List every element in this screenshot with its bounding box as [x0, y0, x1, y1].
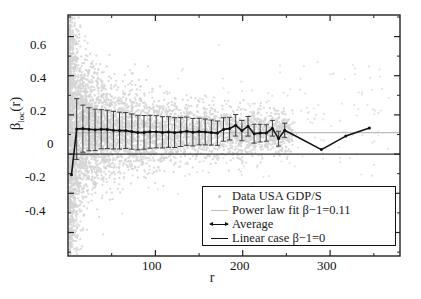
legend-item-linear: Linear case β−1=0: [203, 231, 395, 245]
ytick-label: 0.2: [30, 103, 46, 119]
figure: 0.6 0.4 0.2 0 -0.2 -0.4 100 200 300 βloc…: [0, 0, 421, 299]
grey-line-icon: [206, 203, 232, 217]
y-axis-title-subscript: loc: [16, 112, 26, 123]
xtick-label: 100: [142, 258, 162, 274]
ytick-label: 0.4: [30, 70, 46, 86]
scatter-dot-icon: [206, 189, 232, 203]
ytick-label: -0.4: [25, 203, 46, 219]
ytick-label: 0.6: [30, 37, 46, 53]
y-axis-title-arg: (r): [7, 97, 23, 112]
legend-label: Power law fit β−1=0.11: [232, 203, 351, 217]
legend-label: Linear case β−1=0: [232, 231, 325, 245]
ytick-label: -0.2: [25, 169, 46, 185]
legend: Data USA GDP/S Power law fit β−1=0.11 Av…: [202, 186, 396, 246]
chart-canvas: [0, 0, 421, 299]
legend-label: Data USA GDP/S: [232, 189, 322, 203]
xtick-label: 300: [317, 258, 337, 274]
legend-item-average: Average: [203, 217, 395, 231]
errorbar-line-icon: [206, 217, 232, 231]
legend-item-data: Data USA GDP/S: [203, 189, 395, 203]
xtick-label: 200: [230, 258, 250, 274]
y-axis-title-beta: β: [7, 123, 23, 131]
legend-label: Average: [232, 217, 273, 231]
ytick-label: 0: [47, 136, 54, 152]
x-axis-title: r: [210, 270, 215, 286]
y-axis-title: βloc(r): [7, 84, 26, 144]
dark-line-icon: [206, 231, 232, 245]
legend-item-powerlaw: Power law fit β−1=0.11: [203, 203, 395, 217]
